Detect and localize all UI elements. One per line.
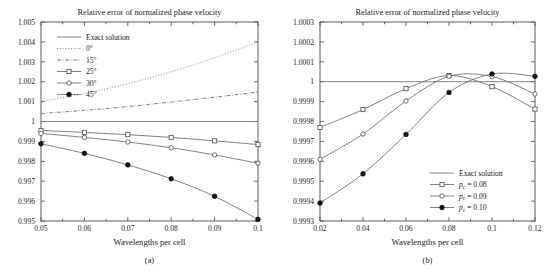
legend-label: 0°	[86, 44, 93, 53]
y-tick-label: 0.9994	[293, 197, 314, 206]
chart-svg-panel-b: Relative error of normalized phase veloc…	[278, 0, 555, 274]
figure-container: Relative error of normalized phase veloc…	[0, 0, 555, 274]
data-point-marker	[82, 151, 87, 156]
series-line	[41, 133, 258, 163]
x-axis-title-b: Wavelengths per cell	[392, 237, 464, 247]
series-line	[320, 74, 535, 160]
data-point-marker	[490, 72, 495, 77]
legend-label: Exact solution	[459, 169, 503, 178]
y-tick-label: 0.9993	[293, 217, 314, 226]
y-tick-label: 0.997	[18, 177, 35, 186]
legend-marker	[67, 69, 71, 73]
y-tick-label: 0.9996	[293, 157, 314, 166]
x-tick-label: 0.06	[78, 224, 91, 233]
y-tick-label: 0.996	[18, 197, 35, 206]
y-tick-label: 0.9998	[293, 117, 314, 126]
data-point-marker	[169, 146, 173, 150]
legend-label: pc = 0.10	[458, 203, 487, 213]
legend-marker	[67, 81, 71, 85]
data-point-marker	[256, 142, 260, 146]
y-tick-label: 0.9997	[293, 137, 314, 146]
data-point-marker	[490, 85, 494, 89]
panel-caption-b: (b)	[423, 256, 433, 265]
y-tick-label: 0.999	[18, 137, 35, 146]
legend-marker	[67, 92, 72, 97]
data-point-marker	[212, 153, 216, 157]
series-line	[320, 76, 535, 128]
data-point-marker	[126, 133, 130, 137]
data-point-marker	[533, 92, 537, 96]
data-point-marker	[82, 135, 86, 139]
series-line	[41, 144, 258, 220]
legend-label: 30°	[86, 79, 97, 88]
x-tick-label: 0.09	[208, 224, 221, 233]
y-tick-label: 0.9995	[293, 177, 314, 186]
series-line	[41, 92, 258, 113]
data-point-marker	[404, 132, 409, 137]
data-point-marker	[169, 177, 174, 182]
data-point-marker	[404, 87, 408, 91]
data-point-marker	[361, 172, 366, 177]
series-line	[320, 73, 535, 203]
data-point-marker	[318, 157, 322, 161]
y-tick-label: 0.9999	[293, 97, 314, 106]
data-point-marker	[318, 125, 322, 129]
plot-frame	[320, 22, 535, 221]
legend-marker	[440, 194, 444, 198]
data-point-marker	[256, 217, 261, 222]
y-tick-label: 1.0002	[293, 38, 314, 47]
data-point-marker	[361, 107, 365, 111]
data-point-marker	[256, 161, 260, 165]
x-tick-label: 0.08	[442, 224, 455, 233]
x-axis-title-a: Wavelengths per cell	[114, 237, 186, 247]
chart-title-b: Relative error of normalized phase veloc…	[356, 8, 501, 17]
y-tick-label: 1.001	[18, 97, 35, 106]
x-tick-label: 0.08	[165, 224, 178, 233]
x-tick-label: 0.05	[34, 224, 47, 233]
data-point-marker	[82, 130, 86, 134]
data-point-marker	[447, 90, 452, 95]
legend-label: pc = 0.09	[458, 192, 487, 202]
legend-marker	[440, 182, 444, 186]
data-point-marker	[533, 74, 538, 79]
data-point-marker	[404, 99, 408, 103]
data-point-marker	[169, 135, 173, 139]
y-tick-label: 1.002	[18, 77, 35, 86]
data-point-marker	[126, 163, 131, 168]
y-tick-label: 1.0003	[293, 18, 314, 27]
data-point-marker	[39, 131, 43, 135]
y-tick-label: 1.005	[18, 18, 35, 27]
chart-panel-a: Relative error of normalized phase veloc…	[0, 0, 277, 274]
y-tick-label: 1.004	[18, 38, 35, 47]
data-point-marker	[318, 201, 323, 206]
x-tick-label: 0.02	[313, 224, 326, 233]
chart-svg-panel-a: Relative error of normalized phase veloc…	[0, 0, 277, 274]
data-point-marker	[361, 132, 365, 136]
legend-marker	[440, 205, 445, 210]
legend-label: Exact solution	[86, 33, 130, 42]
y-tick-label: 1	[31, 117, 35, 126]
y-tick-label: 0.998	[18, 157, 35, 166]
x-tick-label: 0.04	[356, 224, 369, 233]
legend-label: 45°	[86, 90, 97, 99]
y-tick-label: 1	[310, 77, 314, 86]
y-tick-label: 1.0001	[293, 58, 314, 67]
x-tick-label: 0.06	[399, 224, 412, 233]
data-point-marker	[39, 141, 44, 146]
data-point-marker	[213, 139, 217, 143]
data-point-marker	[533, 107, 537, 111]
panel-caption-a: (a)	[145, 256, 155, 265]
legend-b: Exact solutionpc = 0.08pc = 0.09pc = 0.1…	[430, 169, 503, 213]
y-tick-label: 0.995	[18, 217, 35, 226]
legend-label: 25°	[86, 67, 97, 76]
legend-label: pc = 0.08	[458, 180, 487, 190]
data-point-marker	[212, 194, 217, 199]
chart-panel-b: Relative error of normalized phase veloc…	[278, 0, 555, 274]
x-tick-label: 0.1	[487, 224, 497, 233]
x-tick-label: 0.1	[253, 224, 263, 233]
legend-label: 15°	[86, 56, 97, 65]
x-tick-label: 0.07	[121, 224, 134, 233]
legend-a: Exact solution0°15°25°30°45°	[57, 33, 130, 100]
chart-title-a: Relative error of normalized phase veloc…	[78, 8, 223, 17]
x-tick-label: 0.12	[528, 224, 541, 233]
